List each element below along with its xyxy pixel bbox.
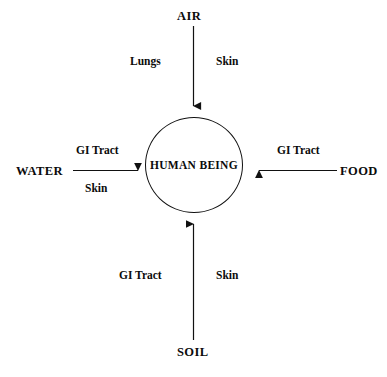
source-label-food: FOOD xyxy=(340,165,378,178)
source-label-water: WATER xyxy=(16,165,63,178)
route-label-water-skin: Skin xyxy=(85,183,107,195)
route-label-soil-skin: Skin xyxy=(216,270,238,282)
human-being-node: HUMAN BEING xyxy=(145,117,243,213)
route-label-food-gi-tract: GI Tract xyxy=(277,145,320,157)
exposure-pathways-diagram: HUMAN BEING AIR Lungs Skin WATER GI Trac… xyxy=(0,0,387,377)
route-label-soil-gi-tract: GI Tract xyxy=(119,270,162,282)
source-label-soil: SOIL xyxy=(177,346,208,359)
human-being-label: HUMAN BEING xyxy=(150,159,238,171)
route-label-air-lungs: Lungs xyxy=(130,56,161,68)
route-label-air-skin: Skin xyxy=(216,56,238,68)
route-label-water-gi-tract: GI Tract xyxy=(76,145,119,157)
source-label-air: AIR xyxy=(177,10,201,23)
